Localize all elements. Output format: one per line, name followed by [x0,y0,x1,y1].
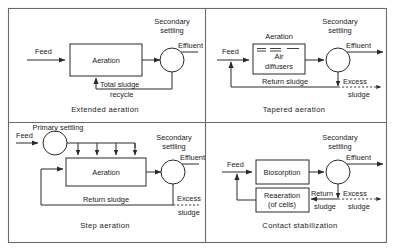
excess-label2-step: sludge [178,208,200,217]
step-feed-arrows [78,143,135,155]
effluent-label-contact: Effluent [346,153,371,162]
secondary-clarifier-extended [160,48,184,72]
recycle-label2-extended: recycle [110,90,133,99]
return-sludge-label-step: Return sludge [83,195,129,204]
return-label1-contact: Return [311,189,333,198]
secondary-settling-label2-step: settling [162,142,185,151]
primary-clarifier-step [43,131,67,155]
secondary-settling-label1-contact: Secondary [322,133,358,142]
return-sludge-label-tapered: Return sludge [262,77,308,86]
diffuser-label1-tapered: Air [274,52,284,61]
caption-tapered-aeration: Tapered aeration [263,105,326,114]
aeration-tank-label-step: Aeration [92,168,120,177]
excess-label2-contact: sludge [348,202,370,211]
panel-tapered-aeration: Feed Aeration Air diffusers Secondary se… [217,17,383,114]
step-feed-header [67,143,135,148]
feed-label-contact: Feed [227,160,244,169]
diagram-canvas: Feed Aeration Secondary settling Effluen… [0,0,395,251]
effluent-label-step: Effluent [180,153,205,162]
secondary-clarifier-contact [326,160,350,184]
secondary-settling-label1-step: Secondary [156,133,192,142]
effluent-label-extended: Effluent [178,41,203,50]
biosorption-label-contact: Biosorption [264,168,301,177]
diffuser-label2-tapered: diffusers [265,62,293,71]
reaeration-label2-contact: (of cells) [268,200,296,209]
secondary-settling-label2-extended: settling [160,26,183,35]
secondary-clarifier-step [161,160,185,184]
process-flow-diagram-figure: Feed Aeration Secondary settling Effluen… [0,0,395,251]
caption-step-aeration: Step aeration [80,221,130,230]
excess-label1-tapered: Excess [343,77,367,86]
aeration-tank-label-extended: Aeration [92,56,120,65]
secondary-settling-label2-tapered: settling [328,26,351,35]
effluent-label-tapered: Effluent [346,41,371,50]
panel-step-aeration: Feed Primary settling Aeration Secondary… [16,123,205,230]
feed-label-extended: Feed [35,47,52,56]
feed-label-tapered: Feed [222,47,239,56]
reaeration-label1-contact: Reaeration [264,191,300,200]
secondary-clarifier-tapered [326,48,350,72]
recycle-label1-extended: Total sludge [100,80,139,89]
secondary-settling-label1-tapered: Secondary [322,17,358,26]
caption-extended-aeration: Extended aeration [71,105,139,114]
caption-contact-stabilization: Contact stabilization [262,221,337,230]
panel-contact-stabilization: Feed Biosorption Secondary settling Effl… [222,133,383,230]
secondary-settling-label2-contact: settling [328,142,351,151]
feed-label-step: Feed [16,131,33,140]
excess-label2-tapered: sludge [348,90,370,99]
secondary-settling-label1-extended: Secondary [154,17,190,26]
excess-label1-contact: Excess [343,189,367,198]
reaeration-return-loop-contact [237,174,256,200]
excess-label1-step: Excess [177,194,201,203]
aeration-title-tapered: Aeration [265,32,293,41]
primary-settling-label-step: Primary settling [33,123,84,132]
return-label2-contact: sludge [314,202,336,211]
panel-extended-aeration: Feed Aeration Secondary settling Effluen… [27,17,203,114]
